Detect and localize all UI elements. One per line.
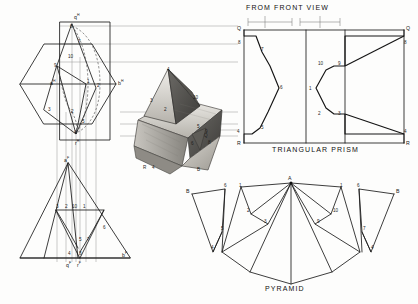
prism-corner-q-right: Q [406, 26, 410, 31]
triangular-prism-caption: TRIANGULAR PRISM [272, 146, 359, 153]
prism-point-6: 6 [280, 86, 283, 91]
label-r-top: rH [75, 140, 79, 146]
top-point-2b: 2 [71, 110, 74, 115]
pyr-point-1-left: 1 [239, 184, 242, 189]
photo-point-b: B [197, 168, 200, 173]
photo-point-5: 5 [197, 125, 200, 130]
photo-point-3: 3 [150, 99, 153, 104]
front-point-7: 7 [87, 238, 90, 243]
label-r-front: rF [77, 262, 81, 268]
photo-point-r: R [143, 166, 146, 171]
prism-point-2: 2 [318, 112, 321, 117]
top-point-3: 3 [48, 108, 51, 113]
photo-point-8: 8 [208, 141, 211, 146]
from-front-view-caption: FROM FRONT VIEW [246, 4, 329, 11]
pyramid-apex-a: A [288, 176, 291, 181]
front-point-1: 1 [83, 205, 86, 210]
model-photograph [130, 62, 230, 180]
engineering-drawing-plate: FROM FRONT VIEW TRIANGULAR PRISM PYRAMID… [0, 0, 418, 304]
top-view-prism-outline [60, 22, 110, 140]
pyramid-development-fan [192, 182, 394, 285]
prism-point-4-left: 4 [237, 130, 240, 135]
label-b-front: bF [122, 252, 127, 258]
prism-point-9: 9 [338, 62, 341, 67]
prism-point-8-left: 8 [238, 41, 241, 46]
pyr-point-5: 5 [221, 227, 224, 232]
top-point-10: 10 [68, 55, 73, 60]
prism-point-5: 5 [261, 126, 264, 131]
front-point-6: 6 [103, 226, 106, 231]
photo-point-4: 4 [167, 68, 170, 73]
label-a-top: aH [50, 80, 55, 86]
pyr-point-2: 2 [247, 209, 250, 214]
prism-corner-r-right: R [406, 141, 410, 146]
pyramid-caption: PYRAMID [265, 285, 305, 292]
pyr-point-6-right: 6 [357, 184, 360, 189]
prism-point-10: 10 [318, 62, 323, 67]
front-point-4: 4 [68, 252, 71, 257]
photo-point-2: 2 [164, 108, 167, 113]
dimension-tick-bar [248, 16, 340, 28]
pyr-point-1-right: 1 [340, 184, 343, 189]
top-point-9: 9 [54, 64, 57, 69]
prism-point-3: 3 [338, 112, 341, 117]
top-point-5: 5 [82, 120, 85, 125]
pyr-point-10: 10 [333, 209, 338, 214]
pyramid-label-b-left: B [186, 189, 189, 194]
prism-development-cut-profile [244, 30, 404, 143]
label-a-front: aF [64, 157, 69, 163]
front-point-2: 2 [65, 205, 68, 210]
prism-corner-q-left: Q [237, 26, 241, 31]
photo-point-q: Q [204, 134, 208, 139]
label-b-top: bH [118, 80, 123, 86]
top-point-8: 8 [70, 25, 73, 30]
photo-point-4b: 4 [152, 166, 155, 171]
pyramid-label-b-right: B [396, 189, 399, 194]
prism-point-7: 7 [261, 48, 264, 53]
pyr-point-9: 9 [317, 220, 320, 225]
pyr-point-3: 3 [264, 220, 267, 225]
pyr-point-7: 7 [363, 227, 366, 232]
top-point-7: 7 [78, 40, 81, 45]
prism-point-4-right: 4 [404, 130, 407, 135]
pyr-point-6-left: 6 [224, 184, 227, 189]
prism-point-1: 1 [309, 87, 312, 92]
front-point-3: 3 [56, 205, 59, 210]
label-q-front: qF [66, 262, 71, 268]
pyr-point-4-right: 4 [371, 246, 374, 251]
top-point-4: 4 [74, 131, 77, 136]
top-point-2: 2 [97, 84, 100, 89]
label-q-top: qH [74, 14, 79, 20]
front-point-5: 5 [79, 238, 82, 243]
front-view-pyramid [20, 163, 130, 258]
front-view-prism [20, 210, 130, 258]
top-point-1: 1 [87, 80, 90, 85]
pyr-point-4-left: 4 [211, 246, 214, 251]
prism-point-8-right: 8 [404, 41, 407, 46]
front-point-8: 8 [79, 252, 82, 257]
photo-point-6: 6 [191, 142, 194, 147]
photo-point-10: 10 [193, 96, 198, 101]
prism-corner-r-left: R [237, 141, 241, 146]
front-point-10: 10 [72, 205, 77, 210]
